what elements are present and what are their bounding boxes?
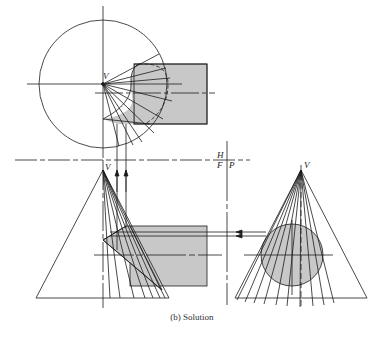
front-vertex-label: V xyxy=(105,162,112,172)
figure-caption: (b) Solution xyxy=(170,312,214,322)
profile-vertex-label: V xyxy=(304,160,311,170)
top-view: V xyxy=(27,6,215,192)
profile-view: V xyxy=(226,160,367,308)
front-view: V xyxy=(36,160,226,308)
fold-label-p: P xyxy=(228,160,235,170)
technical-drawing: V H F P xyxy=(0,0,384,338)
fold-label-h: H xyxy=(216,150,224,160)
fold-label-f: F xyxy=(216,160,223,170)
